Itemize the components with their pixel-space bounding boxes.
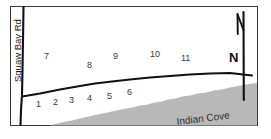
parcel-label-8: 8: [87, 61, 92, 70]
parcel-label-9: 9: [113, 52, 118, 61]
map-graphics: [0, 0, 271, 139]
parcel-label-2: 2: [53, 98, 58, 107]
parcel-map-figure: Squaw Bay Rd Indian Cove N 7 8 9 10 11 1…: [0, 0, 271, 139]
parcel-label-3: 3: [69, 96, 74, 105]
north-label: N: [229, 51, 238, 64]
parcel-label-6: 6: [127, 88, 132, 97]
parcel-label-11: 11: [181, 54, 190, 63]
parcel-label-10: 10: [150, 50, 160, 59]
parcel-label-5: 5: [107, 92, 112, 101]
parcel-label-1: 1: [36, 100, 41, 109]
parcel-label-7: 7: [44, 52, 49, 61]
parcel-label-4: 4: [87, 94, 92, 103]
road-label-squaw-bay-rd: Squaw Bay Rd: [13, 19, 23, 82]
